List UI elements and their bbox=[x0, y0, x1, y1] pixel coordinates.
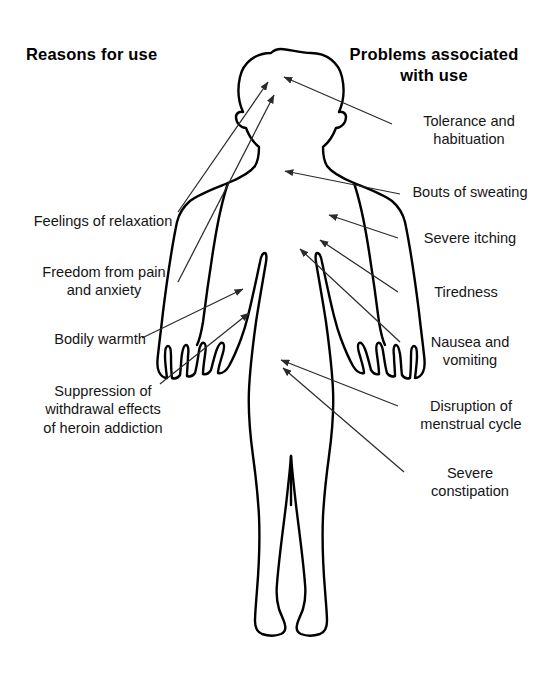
label-line: Disruption of bbox=[404, 397, 538, 415]
label-line: menstrual cycle bbox=[404, 415, 538, 433]
label-line: Suppression of bbox=[20, 382, 186, 400]
label-nausea-and-vomiting: Nausea and vomiting bbox=[406, 333, 534, 370]
arrow-feelings-of-relaxation bbox=[178, 82, 268, 212]
heading-reasons-for-use: Reasons for use bbox=[26, 44, 157, 65]
label-line: Tiredness bbox=[408, 283, 524, 301]
label-line: Bouts of sweating bbox=[398, 183, 541, 201]
body-diagram: Reasons for use Problems associated with… bbox=[0, 0, 541, 680]
arrow-nausea-and-vomiting bbox=[300, 249, 400, 342]
label-line: Severe bbox=[408, 464, 532, 482]
heading-problems-line1: Problems associated bbox=[336, 44, 532, 65]
label-line: habituation bbox=[396, 130, 541, 148]
heading-problems-with-use: Problems associated with use bbox=[336, 44, 532, 85]
label-line: Freedom from pain bbox=[22, 263, 186, 281]
label-feelings-of-relaxation: Feelings of relaxation bbox=[18, 212, 188, 230]
heading-problems-line2: with use bbox=[336, 65, 532, 86]
label-line: Feelings of relaxation bbox=[18, 212, 188, 230]
arrow-tiredness bbox=[320, 240, 398, 292]
label-freedom-from-pain-and-anxiety: Freedom from pain and anxiety bbox=[22, 263, 186, 300]
label-severe-constipation: Severe constipation bbox=[408, 464, 532, 501]
arrow-freedom-from-pain-and-anxiety bbox=[178, 95, 274, 282]
label-line: Nausea and bbox=[406, 333, 534, 351]
label-disruption-of-menstrual-cycle: Disruption of menstrual cycle bbox=[404, 397, 538, 434]
label-line: vomiting bbox=[406, 351, 534, 369]
label-line: of heroin addiction bbox=[20, 419, 186, 437]
label-tiredness: Tiredness bbox=[408, 283, 524, 301]
label-line: Tolerance and bbox=[396, 112, 541, 130]
label-bodily-warmth: Bodily warmth bbox=[30, 330, 170, 348]
label-severe-itching: Severe itching bbox=[404, 229, 536, 247]
label-line: withdrawal effects bbox=[20, 400, 186, 418]
arrow-bouts-of-sweating bbox=[285, 171, 400, 194]
label-bouts-of-sweating: Bouts of sweating bbox=[398, 183, 541, 201]
label-line: Bodily warmth bbox=[30, 330, 170, 348]
label-suppression-of-withdrawal-effects: Suppression of withdrawal effects of her… bbox=[20, 382, 186, 437]
label-line: Severe itching bbox=[404, 229, 536, 247]
arrow-disruption-of-menstrual-cycle bbox=[281, 360, 398, 406]
label-line: constipation bbox=[408, 482, 532, 500]
arrow-severe-constipation bbox=[283, 368, 404, 472]
label-tolerance-and-habituation: Tolerance and habituation bbox=[396, 112, 541, 149]
label-line: and anxiety bbox=[22, 281, 186, 299]
body-outline bbox=[157, 49, 424, 636]
